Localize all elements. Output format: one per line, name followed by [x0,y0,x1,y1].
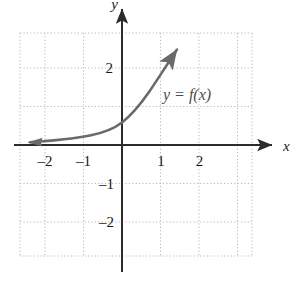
x-tick-label-1: 1 [157,153,165,169]
x-axis-label: x [282,138,290,154]
curve-equation-label: y = f(x) [161,86,211,104]
graph-figure: –2 –1 1 2 2 –1 –2 x y y = f(x) [0,0,292,282]
x-tick-label-2: 2 [196,153,204,169]
y-axis-label: y [109,0,118,12]
x-tick-label-neg1: –1 [75,153,91,169]
y-tick-label-neg1: –1 [98,176,114,192]
y-tick-label-2: 2 [106,60,114,76]
figure-page: –2 –1 1 2 2 –1 –2 x y y = f(x) [0,0,292,282]
y-tick-label-neg2: –2 [98,214,114,230]
x-tick-label-neg2: –2 [37,153,53,169]
